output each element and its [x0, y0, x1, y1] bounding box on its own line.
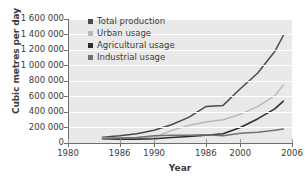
x-axis-tick-label: 1990: [131, 148, 177, 158]
y-axis-tick-mark: [64, 81, 68, 82]
y-axis-tick-mark: [64, 143, 68, 144]
legend-swatch-icon: [88, 31, 93, 36]
gridline: [68, 65, 292, 66]
series-line: [102, 129, 283, 138]
line-chart: Cubic metres per day 0200 000400 000600 …: [0, 0, 305, 178]
legend-label: Total production: [97, 17, 165, 26]
y-axis-tick-label: 1 200 000: [14, 45, 64, 54]
x-axis-tick-label: 2006: [269, 148, 305, 158]
legend-label: Agricultural usage: [97, 41, 175, 50]
legend-swatch-icon: [88, 55, 93, 60]
x-axis-tick-mark: [240, 143, 241, 147]
legend-item[interactable]: Industrial usage: [88, 52, 175, 64]
x-axis-tick-mark: [68, 143, 69, 147]
x-axis-tick-label: 1980: [45, 148, 91, 158]
y-axis-tick-label: 0: [14, 138, 64, 147]
y-axis-tick-label: 200 000: [14, 123, 64, 132]
y-axis-tick-label: 1 600 000: [14, 14, 64, 23]
gridline: [68, 112, 292, 113]
x-axis-tick-mark: [154, 143, 155, 147]
y-axis-tick-mark: [64, 19, 68, 20]
y-axis-line: [68, 19, 69, 144]
x-axis-title: Year: [68, 163, 292, 173]
y-axis-tick-mark: [64, 34, 68, 35]
gridline: [68, 127, 292, 128]
legend-label: Urban usage: [97, 29, 151, 38]
y-axis-tick-mark: [64, 50, 68, 51]
x-axis-tick-mark: [120, 143, 121, 147]
y-axis-tick-mark: [64, 112, 68, 113]
y-axis-tick-mark: [64, 127, 68, 128]
x-axis-inner-tick: [120, 139, 121, 143]
x-axis-line: [68, 143, 293, 144]
legend-item[interactable]: Urban usage: [88, 27, 175, 39]
x-axis-inner-tick: [292, 139, 293, 143]
legend-swatch-icon: [88, 19, 93, 24]
gridline: [68, 81, 292, 82]
y-axis-tick-mark: [64, 96, 68, 97]
x-axis-inner-tick: [68, 139, 69, 143]
legend-label: Industrial usage: [97, 53, 165, 62]
y-axis-tick-label: 1 000 000: [14, 61, 64, 70]
y-axis-tick-mark: [64, 65, 68, 66]
legend-item[interactable]: Agricultural usage: [88, 39, 175, 51]
legend-swatch-icon: [88, 43, 93, 48]
x-axis-tick-mark: [292, 143, 293, 147]
chart-legend: Total productionUrban usageAgricultural …: [88, 15, 175, 64]
x-axis-tick-label: 2000: [217, 148, 263, 158]
legend-item[interactable]: Total production: [88, 15, 175, 27]
y-axis-tick-label: 400 000: [14, 107, 64, 116]
y-axis-tick-labels: 0200 000400 000600 000800 0001 000 0001 …: [14, 14, 64, 150]
x-axis-tick-mark: [206, 143, 207, 147]
y-axis-tick-label: 600 000: [14, 92, 64, 101]
y-axis-tick-label: 1 400 000: [14, 30, 64, 39]
gridline: [68, 96, 292, 97]
x-axis-inner-tick: [206, 139, 207, 143]
y-axis-tick-label: 800 000: [14, 76, 64, 85]
x-axis-inner-tick: [240, 139, 241, 143]
x-axis-inner-tick: [154, 139, 155, 143]
